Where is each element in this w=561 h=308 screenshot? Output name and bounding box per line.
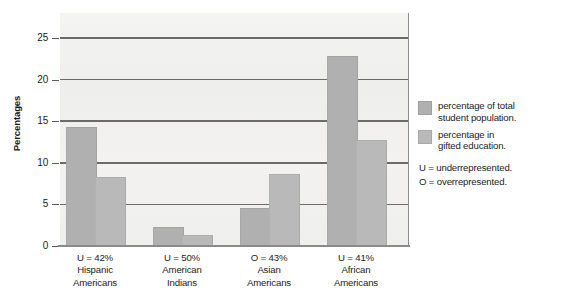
- legend-label-series-0-line-1: percentage of total: [438, 100, 515, 111]
- y-tick-label-10: 10: [22, 157, 48, 168]
- note-overrepresented: O = overrepresented.: [419, 175, 558, 189]
- plot-area: [60, 13, 409, 246]
- chart-legend: percentage of total student population. …: [418, 100, 558, 188]
- legend-notes: U = underrepresented. O = overrepresente…: [418, 161, 558, 188]
- y-tick-mark-5: [52, 204, 59, 205]
- legend-label-series-1: percentage in gifted education.: [438, 129, 506, 153]
- x-category-label-3: U = 41%AfricanAmericans: [301, 252, 411, 289]
- bar-series-1-category-0: [95, 177, 126, 246]
- note-underrepresented: U = underrepresented.: [419, 161, 558, 175]
- x-category-3-line-1: African: [301, 264, 411, 276]
- bar-series-0-category-1: [153, 227, 184, 246]
- bar-series-0-category-3: [327, 56, 358, 246]
- legend-label-series-0: percentage of total student population.: [438, 100, 516, 124]
- x-axis-line: [58, 245, 410, 247]
- bar-series-0-category-2: [240, 208, 271, 246]
- legend-swatch-icon-series-0: [418, 101, 432, 115]
- bar-series-1-category-2: [269, 174, 300, 246]
- y-axis-title: Percentages: [11, 84, 22, 164]
- legend-label-series-1-line-2: gifted education.: [438, 140, 506, 151]
- legend-item-gifted-education: percentage in gifted education.: [418, 129, 558, 153]
- legend-item-total-population: percentage of total student population.: [418, 100, 558, 124]
- bar-chart-figure: Percentages 0510152025 U = 42%HispanicAm…: [0, 0, 561, 308]
- x-category-3-status: U = 41%: [301, 252, 411, 264]
- y-tick-label-5: 5: [22, 198, 48, 209]
- gridline-25: [60, 37, 408, 39]
- bar-series-1-category-3: [356, 140, 387, 246]
- legend-label-series-1-line-1: percentage in: [438, 129, 494, 140]
- y-tick-mark-15: [52, 121, 59, 122]
- legend-swatch-icon-series-1: [418, 130, 432, 144]
- y-tick-label-20: 20: [22, 74, 48, 85]
- y-tick-mark-10: [52, 163, 59, 164]
- y-tick-label-25: 25: [22, 32, 48, 43]
- x-category-3-line-2: Americans: [301, 277, 411, 289]
- legend-label-series-0-line-2: student population.: [438, 112, 516, 123]
- y-tick-mark-25: [52, 38, 59, 39]
- y-tick-label-0: 0: [22, 240, 48, 251]
- bar-series-0-category-0: [66, 127, 97, 246]
- y-tick-mark-20: [52, 80, 59, 81]
- y-tick-label-15: 15: [22, 115, 48, 126]
